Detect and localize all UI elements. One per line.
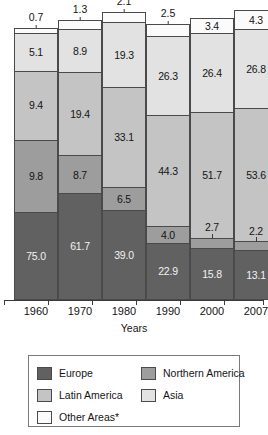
bar-column-1990: 2.5 26.3 44.3 4.0 22.9 (146, 24, 190, 300)
segment-2000-asia: 26.4 (191, 34, 233, 112)
x-axis-title: Years (0, 322, 268, 334)
segment-2000-other-areas: 3.4 (191, 19, 233, 34)
legend-column-left: Europe Latin America Other Areas* (37, 363, 123, 429)
segment-1990-asia-value: 26.3 (158, 71, 178, 82)
segment-1980-northern-america-value: 6.5 (117, 194, 131, 205)
segment-2007-asia: 26.8 (235, 30, 268, 109)
legend-label-asia: Asia (163, 390, 183, 401)
segment-1980-other-areas (103, 13, 145, 23)
bar-1970-stack: 8.9 19.4 8.7 61.7 (58, 20, 102, 300)
legend-swatch-europe-icon (37, 367, 52, 380)
bar-column-2007: 4.3 26.8 53.6 2.2 13.1 (234, 10, 268, 300)
x-axis-tick (48, 300, 49, 305)
x-axis-tick (4, 300, 5, 305)
segment-1990-europe-value: 22.9 (158, 266, 178, 277)
legend-swatch-asia-icon (141, 389, 156, 402)
segment-1970-other-areas (59, 21, 101, 30)
segment-1960-asia: 5.1 (15, 34, 57, 72)
x-axis-tick (180, 300, 181, 305)
bar-1970-other-callout: 1.3 (73, 4, 88, 20)
segment-1980-latin-america-value: 33.1 (114, 132, 134, 143)
segment-2007-europe-value: 13.1 (246, 270, 266, 281)
segment-2000-europe-value: 15.8 (202, 269, 222, 280)
x-tick-label-2000: 2000 (190, 306, 234, 317)
legend-label-other-areas: Other Areas* (59, 412, 119, 423)
segment-2000-asia-value: 26.4 (202, 68, 222, 79)
segment-1980-northern-america: 6.5 (103, 188, 145, 211)
legend-item-other-areas: Other Areas* (37, 407, 123, 428)
bar-1960-other-callout-value: 0.7 (29, 12, 44, 23)
segment-2000-northern-america: 2.7 (191, 239, 233, 250)
legend-swatch-latin-america-icon (37, 389, 52, 402)
segment-2000-other-areas-value: 3.4 (205, 21, 219, 32)
segment-2007-latin-america: 53.6 (235, 109, 268, 242)
segment-1990-latin-america: 44.3 (147, 116, 189, 226)
x-tick-label-1960: 1960 (14, 306, 58, 317)
segment-2007-other-areas-value: 4.3 (249, 15, 263, 26)
x-tick-label-1980: 1980 (102, 306, 146, 317)
callout-tick (167, 21, 168, 25)
callout-tick (35, 25, 36, 29)
legend-item-latin-america: Latin America (37, 385, 123, 406)
x-axis-tick (224, 300, 225, 305)
segment-1960-northern-america-value: 9.8 (29, 171, 43, 182)
bar-1960-other-callout: 0.7 (29, 12, 44, 28)
segment-1960-asia-value: 5.1 (29, 47, 43, 58)
segment-1970-asia-value: 8.9 (73, 46, 87, 57)
segment-1970-latin-america-value: 19.4 (70, 109, 90, 120)
bar-1980-other-callout-value: 2.1 (117, 0, 132, 7)
legend-column-right: Northern America Asia (141, 363, 245, 407)
x-axis-tick (92, 300, 93, 305)
bar-1980-other-callout: 2.1 (117, 0, 132, 12)
segment-1980-asia-value: 19.3 (114, 50, 134, 61)
segment-2007-asia-value: 26.8 (246, 64, 266, 75)
segment-2000-latin-america-value: 51.7 (202, 170, 222, 181)
segment-1970-latin-america: 19.4 (59, 73, 101, 156)
segment-2007-europe: 13.1 (235, 251, 268, 299)
stacked-bar-chart: 0.7 5.1 9.4 9.8 75.0 1.3 (0, 0, 268, 300)
segment-1960-northern-america: 9.8 (15, 141, 57, 213)
segment-1970-asia: 8.9 (59, 30, 101, 73)
legend-item-europe: Europe (37, 363, 123, 384)
bar-1990-other-callout: 2.5 (161, 8, 176, 24)
segment-1990-other-areas (147, 25, 189, 37)
bar-column-1970: 1.3 8.9 19.4 8.7 61.7 (58, 20, 102, 300)
bar-2007-stack: 4.3 26.8 53.6 2.2 13.1 (234, 10, 268, 300)
segment-2000-northern-america-callout: 2.7 (205, 222, 219, 239)
segment-1990-europe: 22.9 (147, 244, 189, 299)
bar-1980-stack: 19.3 33.1 6.5 39.0 (102, 12, 146, 300)
legend-item-asia: Asia (141, 385, 245, 406)
legend-label-northern-america: Northern America (163, 368, 245, 379)
callout-tick (79, 17, 80, 21)
bar-column-1980: 2.1 19.3 33.1 6.5 39.0 (102, 12, 146, 300)
segment-1990-northern-america: 4.0 (147, 227, 189, 245)
bar-column-2000: 3.4 26.4 51.7 2.7 15.8 (190, 18, 234, 300)
segment-1960-latin-america-value: 9.4 (29, 100, 43, 111)
segment-1980-latin-america: 33.1 (103, 88, 145, 188)
legend-label-europe: Europe (59, 368, 93, 379)
bar-1960-stack: 5.1 9.4 9.8 75.0 (14, 28, 58, 300)
segment-1970-europe: 61.7 (59, 194, 101, 299)
segment-1980-asia: 19.3 (103, 23, 145, 88)
x-axis-tick-labels: 1960 1970 1980 1990 2000 2007 (0, 306, 268, 322)
bar-1990-stack: 26.3 44.3 4.0 22.9 (146, 24, 190, 300)
segment-2000-latin-america: 51.7 (191, 113, 233, 239)
x-tick-label-2007: 2007 (234, 306, 268, 317)
segment-2007-latin-america-value: 53.6 (246, 170, 266, 181)
callout-tick (123, 9, 124, 13)
x-axis-line (4, 300, 264, 301)
segment-2007-northern-america: 2.2 (235, 242, 268, 251)
segment-1960-latin-america: 9.4 (15, 72, 57, 141)
segment-1970-northern-america: 8.7 (59, 156, 101, 194)
segment-2000-europe: 15.8 (191, 249, 233, 299)
callout-tick (212, 234, 213, 239)
bar-column-1960: 0.7 5.1 9.4 9.8 75.0 (14, 28, 58, 300)
x-axis-tick (136, 300, 137, 305)
segment-1970-europe-value: 61.7 (70, 241, 90, 252)
segment-1980-europe: 39.0 (103, 211, 145, 299)
bar-1990-other-callout-value: 2.5 (161, 8, 176, 19)
callout-tick (256, 237, 257, 242)
x-tick-label-1990: 1990 (146, 306, 190, 317)
segment-2000-northern-america-value: 2.7 (205, 222, 219, 233)
x-tick-label-1970: 1970 (58, 306, 102, 317)
